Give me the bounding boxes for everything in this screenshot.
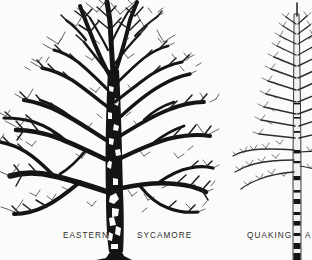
label-sycamore-part-1: EASTERN: [63, 231, 109, 240]
aspen-trunk: [293, 14, 301, 260]
aspen-illustration: [232, 0, 312, 260]
sycamore-illustration: [0, 0, 220, 260]
label-sycamore-part-2: SYCAMORE: [137, 231, 192, 240]
tree-figure-aspen: [232, 0, 312, 260]
label-aspen-part-2: A: [305, 231, 312, 240]
tree-figure-sycamore: [0, 0, 220, 260]
tree-identification-plate: EASTERN SYCAMORE QUAKING A: [0, 0, 312, 260]
label-aspen-part-1: QUAKING: [247, 231, 292, 240]
